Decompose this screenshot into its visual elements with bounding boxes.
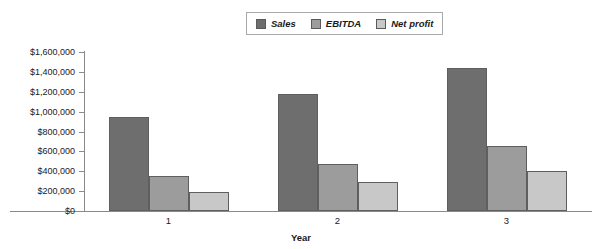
legend-label: EBITDA xyxy=(326,19,361,29)
legend-swatch-icon xyxy=(256,19,266,29)
legend-item-sales[interactable]: Sales xyxy=(256,19,296,29)
legend-item-net-profit[interactable]: Net profit xyxy=(376,19,433,29)
legend-item-ebitda[interactable]: EBITDA xyxy=(311,19,361,29)
x-axis-tick-label: 3 xyxy=(504,216,509,226)
bar-sales-year-1[interactable] xyxy=(109,117,149,211)
legend-label: Net profit xyxy=(391,19,433,29)
y-axis-tick xyxy=(79,112,84,113)
y-axis-tick-label: $1,200,000 xyxy=(30,87,75,96)
y-axis-tick xyxy=(79,191,84,192)
bar-sales-year-3[interactable] xyxy=(447,68,487,211)
y-axis-tick xyxy=(79,171,84,172)
legend-swatch-icon xyxy=(376,19,386,29)
x-axis-line xyxy=(10,211,592,212)
y-axis-tick-label: $400,000 xyxy=(37,167,75,176)
y-axis-tick-label: $1,000,000 xyxy=(30,107,75,116)
y-axis-tick xyxy=(79,72,84,73)
y-axis-tick xyxy=(79,132,84,133)
bar-ebitda-year-1[interactable] xyxy=(149,176,189,211)
x-axis-title: Year xyxy=(0,233,602,243)
bar-sales-year-2[interactable] xyxy=(278,94,318,211)
legend-swatch-icon xyxy=(311,19,321,29)
y-axis-tick xyxy=(79,52,84,53)
y-axis-tick-label: $600,000 xyxy=(37,147,75,156)
legend-label: Sales xyxy=(271,19,296,29)
y-axis-tick-label: $1,600,000 xyxy=(30,48,75,57)
plot-area xyxy=(84,52,591,211)
y-axis-tick xyxy=(79,92,84,93)
y-axis-tick-label: $800,000 xyxy=(37,127,75,136)
y-axis-tick-label: $0 xyxy=(65,207,75,216)
bar-chart: SalesEBITDANet profit Year $0$200,000$40… xyxy=(0,0,602,249)
y-axis-tick-label: $1,400,000 xyxy=(30,67,75,76)
bar-net-profit-year-3[interactable] xyxy=(527,171,567,211)
y-axis-tick xyxy=(79,211,84,212)
bar-ebitda-year-2[interactable] xyxy=(318,164,358,211)
y-axis-tick xyxy=(79,151,84,152)
bar-net-profit-year-1[interactable] xyxy=(189,192,229,211)
x-axis-tick-label: 1 xyxy=(166,216,171,226)
y-axis-tick-label: $200,000 xyxy=(37,187,75,196)
bar-ebitda-year-3[interactable] xyxy=(487,146,527,211)
x-axis-tick-label: 2 xyxy=(335,216,340,226)
chart-legend: SalesEBITDANet profit xyxy=(246,12,443,35)
bar-net-profit-year-2[interactable] xyxy=(358,182,398,211)
